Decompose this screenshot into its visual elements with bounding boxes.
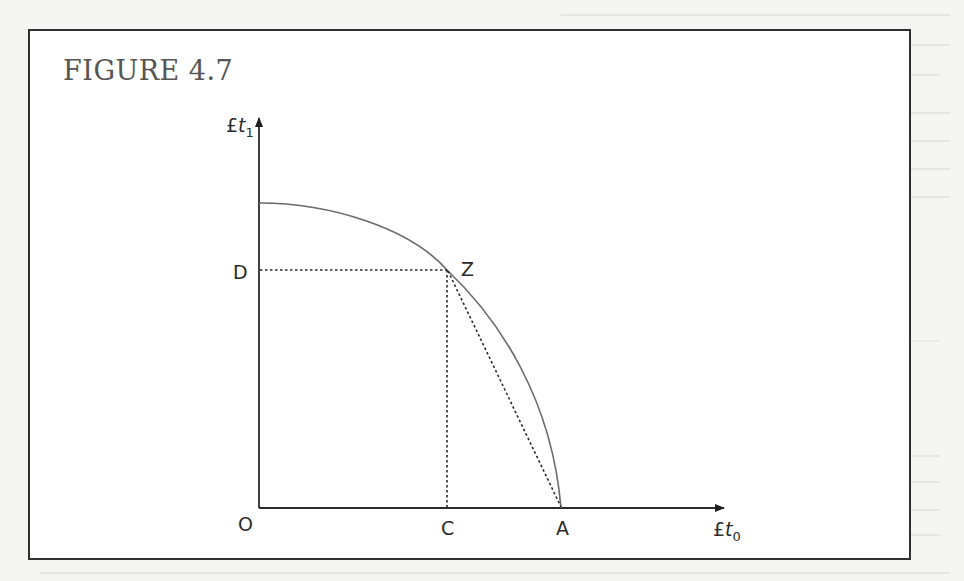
point-label-o: O	[238, 513, 253, 535]
scanned-page: FIGURE 4.7 £t1 £t0	[0, 0, 964, 581]
investment-opportunity-diagram: £t1 £t0 O D Z C A	[0, 0, 964, 581]
svg-text:£t1: £t1	[226, 114, 254, 140]
point-label-c: C	[441, 517, 454, 539]
opportunity-curve	[259, 203, 561, 508]
point-label-z: Z	[461, 258, 474, 280]
point-label-a: A	[556, 517, 569, 539]
y-axis-label: £t1	[226, 114, 254, 140]
svg-text:£t0: £t0	[713, 518, 741, 544]
point-label-d: D	[233, 261, 248, 283]
x-axis-label: £t0	[713, 518, 741, 544]
dashed-line-z-a	[448, 271, 561, 507]
